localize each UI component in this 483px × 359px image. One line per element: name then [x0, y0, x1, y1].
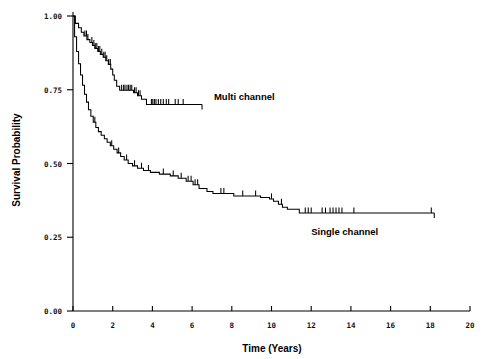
- series-label-single-channel: Single channel: [311, 226, 378, 237]
- y-tick-label: 0.00: [44, 307, 63, 316]
- x-tick-label: 2: [110, 321, 115, 330]
- y-tick-label: 0.50: [44, 160, 63, 169]
- x-tick-label: 16: [386, 321, 396, 330]
- x-tick-label: 0: [71, 321, 76, 330]
- y-axis-title: Survival Probability: [11, 113, 22, 207]
- x-tick-label: 6: [190, 321, 195, 330]
- y-tick-label: 0.75: [44, 86, 62, 95]
- y-tick-label: 1.00: [44, 12, 63, 21]
- x-tick-label: 10: [267, 321, 277, 330]
- x-tick-label: 4: [150, 321, 155, 330]
- x-tick-label: 14: [346, 321, 356, 330]
- x-tick-label: 12: [307, 321, 316, 330]
- x-tick-label: 20: [465, 321, 475, 330]
- survival-chart: 02468101214161820 0.000.250.500.751.00 M…: [0, 0, 483, 359]
- x-tick-label: 8: [230, 321, 235, 330]
- series-label-multi-channel: Multi channel: [214, 91, 275, 102]
- x-axis-title: Time (Years): [242, 343, 301, 354]
- y-tick-label: 0.25: [44, 233, 62, 242]
- x-tick-label: 18: [426, 321, 436, 330]
- chart-canvas: 02468101214161820 0.000.250.500.751.00 M…: [0, 0, 483, 359]
